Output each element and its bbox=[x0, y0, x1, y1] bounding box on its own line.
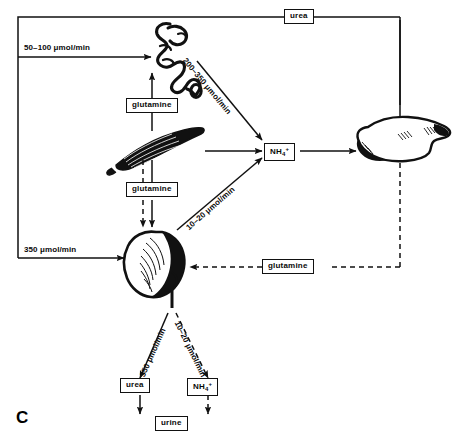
box-urine[interactable]: urine bbox=[155, 416, 188, 431]
diagram-canvas bbox=[0, 0, 459, 437]
kidney-illustration bbox=[124, 232, 184, 308]
muscle-illustration bbox=[107, 128, 204, 175]
ammonium-symbol: NH bbox=[270, 147, 282, 156]
figure-panel: 50–100 μmol/min 350 μmol/min 200–350 μmo… bbox=[0, 0, 459, 437]
liver-illustration bbox=[357, 117, 450, 161]
ammonium-urine-symbol: NH bbox=[193, 382, 205, 391]
label-gut-input-flux: 50–100 μmol/min bbox=[24, 44, 90, 52]
box-glutamine-gut[interactable]: glutamine bbox=[126, 98, 178, 113]
panel-letter: C bbox=[16, 409, 28, 426]
ammonium-superscript: + bbox=[286, 146, 290, 152]
box-urea-urine[interactable]: urea bbox=[120, 378, 150, 393]
intestine-illustration bbox=[157, 24, 202, 98]
arrow-gut-to-ammonium bbox=[197, 61, 262, 140]
flux-arrows-solid bbox=[18, 20, 400, 414]
box-ammonium-plasma[interactable]: NH4+ bbox=[264, 143, 295, 161]
ammonium-urine-superscript: + bbox=[209, 381, 213, 387]
flux-arrows-dashed bbox=[143, 160, 400, 414]
box-glutamine-kidney[interactable]: glutamine bbox=[126, 182, 178, 197]
box-ammonium-urine[interactable]: NH4+ bbox=[187, 378, 218, 396]
box-urea-top[interactable]: urea bbox=[284, 9, 314, 24]
label-kidney-input-flux: 350 μmol/min bbox=[24, 246, 76, 254]
box-glutamine-liver[interactable]: glutamine bbox=[262, 259, 314, 274]
circulation-frame bbox=[18, 17, 400, 258]
